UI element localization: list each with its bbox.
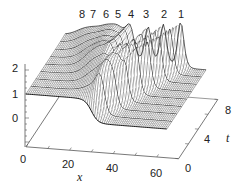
peak-label-6: 6 xyxy=(103,8,109,20)
t-tick-label-4: 4 xyxy=(204,133,210,145)
peak-label-7: 7 xyxy=(90,8,96,20)
surface-plot: 2 1 0 0 20 40 60 x 0 4 8 t 8 7 6 5 4 3 2… xyxy=(0,0,243,190)
peak-label-8: 8 xyxy=(79,8,85,20)
peak-label-5: 5 xyxy=(115,8,121,20)
x-tick-label-20: 20 xyxy=(62,158,74,170)
x-axis-label: x xyxy=(76,170,83,184)
peak-label-2: 2 xyxy=(161,8,167,20)
x-tick-label-0: 0 xyxy=(20,153,26,165)
x-tick-label-40: 40 xyxy=(106,162,118,174)
peak-label-3: 3 xyxy=(143,8,149,20)
t-axis-label: t xyxy=(226,131,230,145)
peak-label-1: 1 xyxy=(178,8,184,20)
surface-mesh xyxy=(26,23,206,129)
x-tick-label-60: 60 xyxy=(150,167,162,179)
t-tick-label-0: 0 xyxy=(185,162,191,174)
z-tick-label-0: 0 xyxy=(12,112,18,124)
peak-label-4: 4 xyxy=(128,8,134,20)
z-tick-label-2: 2 xyxy=(12,62,18,74)
t-tick-label-8: 8 xyxy=(225,104,231,116)
z-tick-label-1: 1 xyxy=(12,88,18,100)
